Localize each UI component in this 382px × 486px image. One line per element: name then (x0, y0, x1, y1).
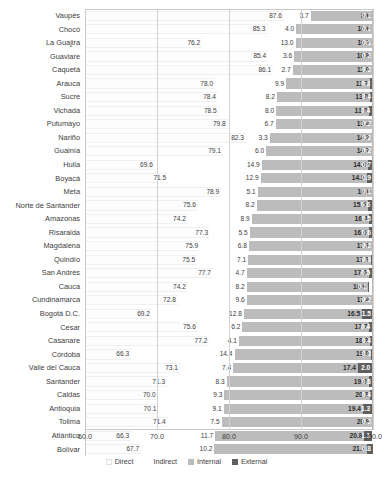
stacked-bar: 85.34.010.60.1 (86, 24, 373, 34)
bar-segment-direct: 82.3 (86, 133, 246, 143)
bar-value-label: 77.7 (198, 270, 211, 277)
bar-segment-internal: 17.1 (248, 255, 371, 265)
bar-segment-direct: 75.6 (86, 200, 198, 210)
bar-segment-direct: 69.2 (86, 309, 152, 319)
category-label: Bolívar (0, 443, 85, 457)
bar-track: 87.63.78.60.1 (85, 9, 373, 23)
bar-segment-internal: 11.0 (293, 65, 372, 75)
category-label: Meta (0, 185, 85, 199)
bar-segment-indirect: 3.7 (284, 11, 311, 21)
bar-segment-external: 2.0 (358, 363, 372, 373)
bar-value-label: 3.7 (299, 12, 308, 19)
bar-value-label: 66.3 (116, 351, 129, 358)
stacked-bar: 71.47.520.90.2 (86, 417, 373, 427)
bar-value-label: 7.4 (222, 365, 231, 372)
bar-value-label: 78.5 (204, 107, 217, 114)
bar-segment-indirect: 6.8 (200, 241, 249, 251)
chart-row: Casanare77.24.118.30.4 (0, 334, 373, 348)
legend-label: Indirect (153, 457, 177, 466)
legend-item-indirect[interactable]: Indirect (144, 457, 177, 466)
bar-value-label: 2.0 (361, 365, 370, 372)
stacked-bar: 75.57.117.10.3 (86, 255, 373, 265)
bar-segment-internal: 14.7 (266, 146, 371, 156)
bar-value-label: 0.3 (362, 351, 371, 358)
category-label: Guainía (0, 144, 85, 158)
bar-segment-external: 0.1 (372, 24, 373, 34)
category-label: Córdoba (0, 348, 85, 362)
bar-segment-external: 0.2 (372, 295, 373, 305)
bar-value-label: 8.2 (266, 94, 275, 101)
bar-value-label: 72.8 (163, 297, 176, 304)
bar-segment-direct: 78.9 (86, 187, 221, 197)
category-label: San Andrés (0, 266, 85, 280)
stacked-bar: 78.09.911.70.3 (86, 78, 373, 88)
bar-segment-indirect: 6.7 (228, 119, 276, 129)
category-label: Guaviare (0, 50, 85, 64)
bar-segment-internal: 14.8 (261, 173, 367, 183)
chart-legend: DirectIndirectInternalExternal (0, 457, 373, 466)
legend-item-internal[interactable]: Internal (188, 457, 221, 466)
bar-value-label: 14.4 (220, 351, 233, 358)
bar-value-label: 8.0 (265, 107, 274, 114)
category-label: Caquetá (0, 63, 85, 77)
category-label: Magdalena (0, 239, 85, 253)
bar-segment-internal: 20.3 (224, 390, 370, 400)
bar-segment-external: 0.2 (372, 51, 373, 61)
bar-segment-direct: 69.6 (86, 160, 155, 170)
legend-label: Internal (197, 457, 221, 466)
bar-value-label: 71.5 (153, 175, 166, 182)
stacked-bar: 75.96.817.10.2 (86, 241, 373, 251)
bar-segment-direct: 75.5 (86, 255, 197, 265)
stacked-bar: 78.48.213.00.4 (86, 92, 373, 102)
category-label: La Guajira (0, 36, 85, 50)
chart-row: Santander71.38.319.80.6 (0, 375, 373, 389)
chart-row: Sucre78.48.213.00.4 (0, 90, 373, 104)
bar-segment-external: 1.3 (363, 404, 372, 414)
chart-row: Magdalena75.96.817.10.2 (0, 239, 373, 253)
bar-value-label: 77.3 (195, 229, 208, 236)
bar-track: 73.17.417.42.0 (85, 361, 373, 375)
bar-segment-internal: 16.5 (244, 309, 362, 319)
bar-segment-internal: 16.0 (258, 187, 373, 197)
bar-value-label: 0.6 (361, 202, 370, 209)
category-label: Sucre (0, 90, 85, 104)
stacked-bar: 77.35.516.60.6 (86, 227, 373, 237)
bar-segment-direct: 70.1 (86, 404, 158, 414)
bar-segment-external: 0.4 (369, 106, 372, 116)
bar-segment-direct: 66.3 (86, 349, 131, 359)
bar-segment-external: 0.9 (367, 173, 373, 183)
bar-segment-external: 0.1 (372, 38, 373, 48)
chart-row: La Guajira76.213.010.70.1 (0, 36, 373, 50)
legend-item-external[interactable]: External (232, 457, 267, 466)
legend-item-direct[interactable]: Direct (106, 457, 134, 466)
chart-row: Vaupés87.63.78.60.1 (0, 9, 373, 23)
bar-segment-external: 0.2 (372, 119, 373, 129)
bar-value-label: 0.1 (362, 40, 371, 47)
bar-segment-indirect: 14.4 (131, 349, 234, 359)
bar-value-label: 67.7 (126, 446, 139, 453)
bar-value-label: 16.5 (347, 311, 360, 318)
chart-row: Norte de Santander75.68.215.50.6 (0, 199, 373, 213)
bar-segment-internal: 20.9 (222, 417, 372, 427)
bar-segment-direct: 72.8 (86, 295, 178, 305)
bar-segment-indirect: 9.6 (178, 295, 247, 305)
category-label: Nariño (0, 131, 85, 145)
bar-value-label: 79.1 (208, 148, 221, 155)
bar-segment-external: 0.6 (368, 200, 372, 210)
chart-row: Córdoba66.314.419.00.3 (0, 348, 373, 362)
chart-row: Arauca78.09.911.70.3 (0, 77, 373, 91)
bar-segment-indirect: 8.2 (198, 200, 257, 210)
bar-value-label: 82.3 (231, 134, 244, 141)
category-label: Norte de Santander (0, 199, 85, 213)
bar-value-label: 78.0 (200, 80, 213, 87)
bar-track: 71.47.520.90.2 (85, 415, 373, 429)
bar-segment-indirect: 6.0 (223, 146, 266, 156)
bar-segment-indirect: 3.3 (246, 133, 270, 143)
bar-value-label: 70.1 (144, 405, 157, 412)
legend-label: Direct (115, 457, 134, 466)
bar-track: 69.212.816.51.5 (85, 307, 373, 321)
chart-row: Boyacá71.512.914.80.9 (0, 172, 373, 186)
bar-segment-direct: 85.4 (86, 51, 268, 61)
chart-row: Bogotá D.C.69.212.816.51.5 (0, 307, 373, 321)
